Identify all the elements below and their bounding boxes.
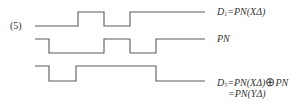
label-d1-rest: =PN(XΔ) xyxy=(227,6,265,17)
figure-number: (5) xyxy=(10,21,22,31)
label-pn: PN xyxy=(217,34,230,44)
label-d5-line2: =PN(YΔ) xyxy=(228,89,266,99)
label-d5-tail: PN xyxy=(275,77,288,88)
xor-symbol: ⊕ xyxy=(265,75,275,89)
waveform-pn xyxy=(35,39,205,53)
label-d5-rest: =PN(XΔ) xyxy=(227,77,265,88)
waveform-d1 xyxy=(35,12,205,26)
label-d1: D1=PN(XΔ) xyxy=(217,7,265,17)
waveform-d5 xyxy=(35,66,205,81)
label-d5: D5=PN(XΔ)⊕PN xyxy=(217,76,288,88)
timing-diagram: (5) D1=PN(XΔ) PN D5=PN(XΔ)⊕PN =PN(YΔ) xyxy=(0,0,297,105)
